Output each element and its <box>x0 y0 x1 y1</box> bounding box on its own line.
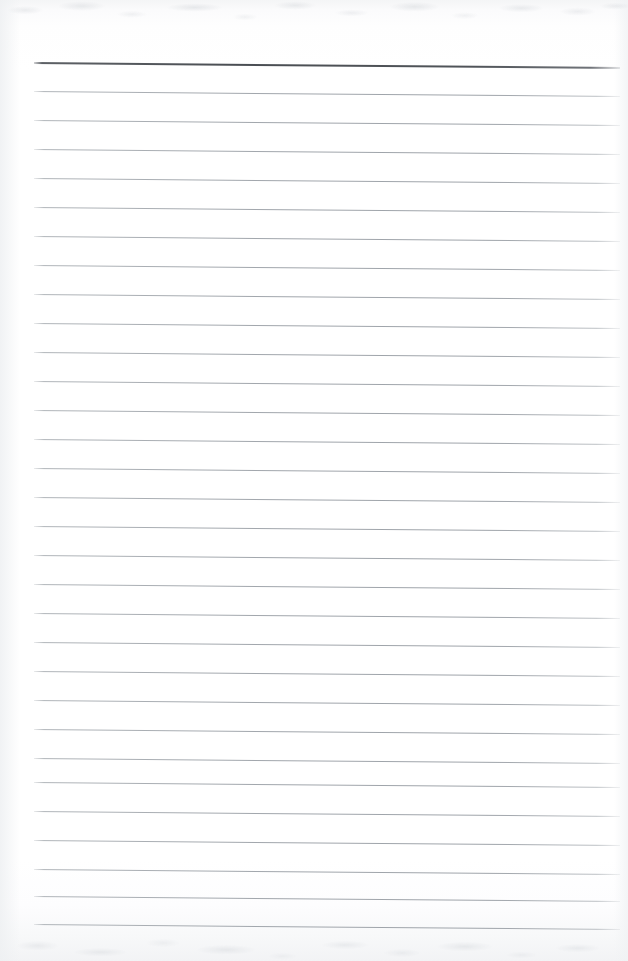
ruled-line <box>34 178 620 184</box>
ruled-line <box>34 869 620 875</box>
ruled-line <box>34 526 620 532</box>
ruled-line <box>34 700 620 706</box>
ruled-line <box>34 584 620 590</box>
ruled-line <box>34 468 620 474</box>
ruled-lines-layer <box>0 0 628 961</box>
ruled-line <box>34 555 620 561</box>
ruled-line <box>34 758 620 764</box>
ruled-line-header <box>34 62 620 69</box>
ruled-line <box>34 381 620 387</box>
ruled-line <box>34 149 620 155</box>
ruled-line <box>34 265 620 271</box>
ruled-line <box>34 840 620 846</box>
ruled-line <box>34 236 620 242</box>
ruled-line <box>34 207 620 213</box>
ruled-line <box>34 613 620 619</box>
ruled-line <box>34 642 620 648</box>
ruled-line <box>34 497 620 503</box>
ruled-line <box>34 323 620 329</box>
scanned-page <box>0 0 628 961</box>
ruled-line <box>34 896 620 902</box>
ruled-line <box>34 410 620 416</box>
ruled-line <box>34 120 620 126</box>
ruled-line <box>34 439 620 445</box>
ruled-line <box>34 811 620 817</box>
ruled-line <box>34 924 620 930</box>
ruled-line <box>34 782 620 788</box>
ruled-line <box>34 91 620 97</box>
ruled-line <box>34 671 620 677</box>
ruled-line <box>34 294 620 300</box>
ruled-line <box>34 729 620 735</box>
ruled-line <box>34 352 620 358</box>
